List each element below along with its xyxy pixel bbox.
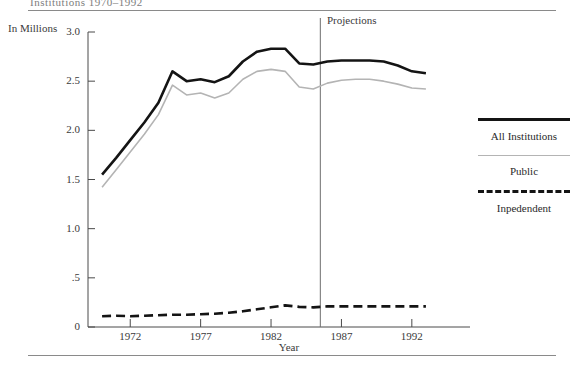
series-line-public bbox=[102, 69, 426, 187]
legend-item-public: Public bbox=[470, 155, 578, 177]
y-tick-label: 2.0 bbox=[50, 123, 80, 135]
y-tick-label: .5 bbox=[50, 271, 80, 283]
x-tick-label: 1982 bbox=[251, 330, 291, 342]
y-tick-label: 1.5 bbox=[50, 173, 80, 185]
legend-label-public: Public bbox=[470, 165, 578, 177]
y-tick-label: 2.5 bbox=[50, 74, 80, 86]
x-tick-label: 1972 bbox=[110, 330, 150, 342]
legend-item-all-institutions: All Institutions bbox=[470, 118, 578, 142]
legend-label-independent: Inpedendent bbox=[470, 202, 578, 214]
legend-item-independent: Inpedendent bbox=[470, 190, 578, 214]
x-tick-label: 1987 bbox=[321, 330, 361, 342]
series-line-all-institutions bbox=[102, 49, 426, 175]
legend-swatch-all-institutions bbox=[478, 118, 570, 129]
series-line-inpedendent bbox=[102, 305, 426, 316]
legend-label-all-institutions: All Institutions bbox=[470, 130, 578, 142]
x-axis-title: Year bbox=[0, 341, 578, 353]
x-tick-label: 1977 bbox=[181, 330, 221, 342]
legend-swatch-public bbox=[478, 155, 570, 164]
y-tick-label: 3.0 bbox=[50, 25, 80, 37]
chart-axes bbox=[88, 32, 470, 327]
legend-swatch-independent bbox=[478, 190, 570, 201]
chart-legend: All Institutions Public Inpedendent bbox=[470, 118, 578, 227]
x-axis-ticks bbox=[130, 319, 412, 327]
y-axis-ticks bbox=[88, 32, 95, 327]
y-tick-label: 0 bbox=[50, 320, 80, 332]
chart-series-group bbox=[102, 49, 426, 316]
x-tick-label: 1992 bbox=[392, 330, 432, 342]
y-tick-label: 1.0 bbox=[50, 222, 80, 234]
